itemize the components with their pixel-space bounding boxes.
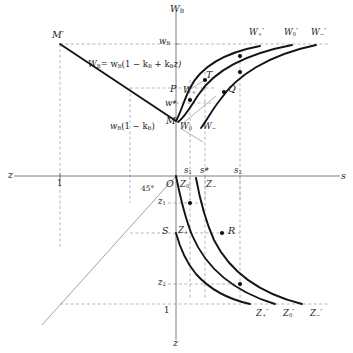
point-label-S: S [162,226,169,236]
curve-W-minus-prime [201,45,316,128]
point-Q-dot [222,90,226,94]
point-label-R: R [228,226,235,236]
axis-label-s-right: s [341,171,346,181]
tick-z2: z2 [158,278,166,288]
angle-label-45: 45° [141,185,154,193]
wage-line-branch [60,44,176,121]
axis-label-z-bottom: z [173,338,178,348]
point-z2-dot [238,282,242,286]
tick-s-sharp: s# [200,166,209,175]
forty-five-degree-ray [42,176,176,325]
curve-Z-minus-prime [196,178,302,304]
curve-label-Z-plus-prime: Z+′ [256,309,268,319]
curve-label-Z-zero: Z0 [180,180,189,190]
curve-label-W-minus-prime: W−′ [311,28,326,38]
point-upper-mid-dot [238,54,242,58]
tick-z1: z1 [158,197,166,207]
point-upper-right-dot [238,70,242,74]
curve-label-W-zero-prime: W0′ [284,28,298,38]
intercept-label: wB(1 − kB) [110,122,155,132]
curve-label-Z-plus: Z+ [178,226,188,236]
diagram-svg [0,0,353,353]
point-label-Q: Q [228,84,236,94]
point-label-T: T [206,70,212,80]
tick-s1: s1 [184,166,192,176]
figure-canvas: WB z s z O 45° wB w# s1 s# s2 z1 z2 1 1 … [0,0,353,353]
tick-one-left: 1 [57,179,62,188]
curve-label-Z-minus-prime: Z−′ [310,309,322,319]
tick-w-bar: wB [159,37,170,47]
curve-label-Z-minus: Z− [206,180,216,190]
axis-label-WB: WB [170,4,184,15]
tick-one-bottom: 1 [164,306,169,315]
point-label-M-prime: M′ [52,30,64,40]
curve-Z-zero-prime [176,176,275,304]
point-label-P: P [170,84,176,94]
point-label-M: M [166,116,176,126]
point-z1-dot [188,201,192,205]
equation-label: WB= wB(1 − kB + kBz) [88,60,181,70]
tick-w-sharp: w# [165,99,177,108]
curve-label-Z-zero-prime: Z0′ [283,309,294,319]
point-Wplus-dot [188,98,192,102]
point-R-dot [220,231,224,235]
construction-dashes [60,44,330,304]
curve-label-W-zero: W0 [180,122,192,132]
upper-wage-curves [176,45,316,128]
axis-label-z-left: z [8,170,13,180]
origin-label: O [166,179,174,189]
tick-s2: s2 [234,166,242,176]
curve-label-W-plus-prime: W+′ [249,28,264,38]
curve-label-W-plus: W+ [183,86,196,96]
curve-label-W-minus: W− [203,122,216,132]
